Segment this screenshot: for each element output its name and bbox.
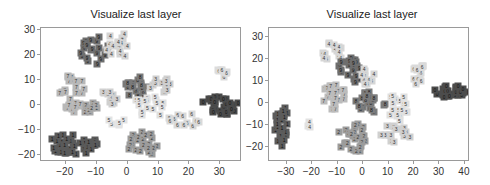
x-tick-mark [311, 161, 312, 164]
data-point: 5 [389, 107, 396, 114]
x-tick-mark [464, 161, 465, 164]
data-point: 7 [56, 89, 63, 96]
data-point: 3 [163, 77, 170, 84]
x-tick-label: 0 [359, 166, 365, 177]
data-point: 3 [384, 123, 391, 130]
data-point: 6 [195, 119, 202, 126]
y-tick-label: 30 [252, 30, 263, 41]
data-point: 9 [344, 72, 351, 79]
data-point: 4 [107, 33, 114, 40]
data-point: 1 [92, 142, 99, 149]
x-tick-mark [158, 161, 159, 164]
y-tick-mark [265, 80, 268, 81]
data-point: 3 [106, 88, 113, 95]
data-point: 2 [358, 127, 365, 134]
data-point: 5 [139, 109, 146, 116]
x-tick-label: 30 [433, 166, 444, 177]
data-point: 0 [211, 98, 218, 105]
data-point: 0 [217, 111, 224, 118]
y-tick-mark [37, 104, 40, 105]
data-point: 4 [361, 66, 368, 73]
data-point: 4 [117, 48, 124, 55]
data-point: 3 [147, 84, 154, 91]
x-tick-label: −20 [303, 166, 320, 177]
y-tick-mark [265, 58, 268, 59]
data-point: 1 [61, 141, 68, 148]
x-tick-label: 10 [382, 166, 393, 177]
y-tick-mark [265, 102, 268, 103]
data-point: 8 [356, 102, 363, 109]
y-tick-label: 30 [24, 24, 35, 35]
y-tick-mark [265, 146, 268, 147]
data-point: 1 [281, 136, 288, 143]
x-tick-mark [388, 161, 389, 164]
left-plot-title: Visualize last layer [91, 8, 182, 20]
y-tick-label: 0 [257, 96, 263, 107]
data-point: 9 [350, 60, 357, 67]
data-point: 2 [348, 131, 355, 138]
y-tick-label: 10 [24, 74, 35, 85]
x-tick-mark [188, 161, 189, 164]
data-point: 7 [327, 83, 334, 90]
x-tick-mark [219, 161, 220, 164]
data-point: 4 [108, 51, 115, 58]
data-point: 9 [94, 60, 101, 67]
data-point: 3 [393, 125, 400, 132]
x-tick-label: 20 [183, 166, 194, 177]
x-tick-label: 20 [407, 166, 418, 177]
data-point: 5 [152, 94, 159, 101]
data-point: 4 [362, 81, 369, 88]
data-point: 8 [382, 101, 389, 108]
data-point: 1 [61, 150, 68, 157]
y-tick-label: −20 [18, 148, 35, 159]
data-point: 2 [137, 148, 144, 155]
x-tick-label: −10 [328, 166, 345, 177]
data-point: 7 [80, 86, 87, 93]
data-point: 9 [337, 67, 344, 74]
x-tick-label: 30 [214, 166, 225, 177]
data-point: 1 [279, 125, 286, 132]
x-tick-label: −10 [87, 166, 104, 177]
data-point: 5 [157, 112, 164, 119]
data-point: 4 [121, 31, 128, 38]
x-tick-label: 40 [458, 166, 469, 177]
data-point: 8 [368, 106, 375, 113]
data-point: 0 [210, 108, 217, 115]
x-tick-mark [96, 161, 97, 164]
data-point: 2 [148, 130, 155, 137]
data-point: 2 [127, 136, 134, 143]
y-tick-label: −20 [246, 140, 263, 151]
data-point: 7 [73, 83, 80, 90]
data-point: 2 [125, 145, 132, 152]
data-point: 5 [390, 100, 397, 107]
y-tick-label: −10 [18, 123, 35, 134]
data-point: 5 [389, 93, 396, 100]
x-tick-mark [337, 161, 338, 164]
x-tick-mark [362, 161, 363, 164]
data-point: 1 [55, 133, 62, 140]
data-point: 8 [370, 94, 377, 101]
right-plot-title: Visualize last layer [327, 8, 418, 20]
data-point: 3 [391, 138, 398, 145]
x-tick-mark [127, 161, 128, 164]
x-tick-mark [286, 161, 287, 164]
data-point: 0 [446, 92, 453, 99]
x-tick-label: −30 [277, 166, 294, 177]
data-point: 6 [218, 67, 225, 74]
data-point: 0 [431, 87, 438, 94]
y-tick-mark [265, 36, 268, 37]
data-point: 9 [77, 49, 84, 56]
data-point: 0 [443, 83, 450, 90]
data-point: 3 [400, 129, 407, 136]
data-point: 9 [95, 33, 102, 40]
data-point: 0 [228, 106, 235, 113]
x-tick-mark [65, 161, 66, 164]
data-point: 2 [344, 139, 351, 146]
data-point: 5 [398, 106, 405, 113]
data-point: 2 [145, 144, 152, 151]
data-point: 5 [149, 106, 156, 113]
data-point: 3 [378, 132, 385, 139]
data-point: 7 [72, 104, 79, 111]
y-tick-mark [37, 79, 40, 80]
y-tick-label: 20 [252, 52, 263, 63]
